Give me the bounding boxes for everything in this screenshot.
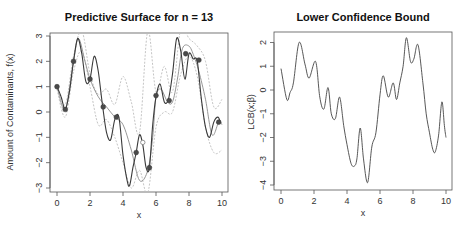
observation-point — [183, 51, 188, 56]
x-tick-label: 6 — [377, 196, 382, 206]
x-tick-label: 4 — [344, 196, 349, 206]
left-y-axis: −3−2−10123 — [34, 33, 50, 193]
observation-point — [55, 84, 60, 89]
x-tick-label: 6 — [153, 198, 158, 208]
left-chart-title: Predictive Surface for n = 13 — [65, 11, 213, 23]
observation-point — [88, 77, 93, 82]
series-line — [57, 51, 222, 194]
x-tick-label: 4 — [120, 198, 125, 208]
y-tick-label: 2 — [34, 59, 44, 64]
observation-point — [71, 59, 76, 64]
observation-point — [216, 120, 221, 125]
left-panel: Predictive Surface for n = 13 −3−2−10123… — [5, 11, 228, 220]
x-tick-label: 2 — [311, 196, 316, 206]
y-tick-label: −1 — [34, 132, 44, 142]
right-x-axis: 0246810 — [278, 190, 451, 206]
y-tick-label: 3 — [34, 33, 44, 38]
y-tick-label: 0 — [34, 109, 44, 114]
series-line — [281, 38, 446, 183]
candidate-point — [141, 140, 145, 144]
observation-point — [167, 98, 172, 103]
x-tick-label: 10 — [217, 198, 227, 208]
y-tick-label: 1 — [258, 64, 268, 69]
observation-point — [147, 165, 152, 170]
x-tick-label: 0 — [278, 196, 283, 206]
x-tick-label: 8 — [410, 196, 415, 206]
y-tick-label: 1 — [34, 84, 44, 89]
left-series-lines — [57, 26, 222, 194]
y-tick-label: −4 — [258, 180, 268, 190]
x-tick-label: 8 — [186, 198, 191, 208]
y-tick-label: 2 — [258, 40, 268, 45]
right-plot-frame — [274, 32, 452, 190]
right-chart-title: Lower Confidence Bound — [296, 11, 429, 23]
y-tick-label: −2 — [258, 132, 268, 142]
observation-point — [197, 58, 202, 63]
observation-point — [154, 93, 159, 98]
right-y-label: LCB(x;β) — [246, 94, 256, 130]
observation-point — [114, 115, 119, 120]
left-y-label: Amount of Contaminants, f(x) — [5, 53, 15, 170]
observation-point — [134, 150, 139, 155]
y-tick-label: 0 — [258, 87, 268, 92]
right-panel: Lower Confidence Bound −4−3−2−1012 02468… — [246, 11, 452, 218]
y-tick-label: −3 — [258, 156, 268, 166]
left-observation-points — [55, 51, 222, 170]
x-tick-label: 2 — [87, 198, 92, 208]
y-tick-label: −2 — [34, 158, 44, 168]
y-tick-label: −3 — [34, 183, 44, 193]
left-x-axis: 0246810 — [54, 192, 227, 208]
series-line — [57, 26, 222, 135]
observation-point — [101, 105, 106, 110]
observation-point — [63, 107, 68, 112]
left-x-label: x — [137, 210, 142, 220]
figure: Predictive Surface for n = 13 −3−2−10123… — [0, 0, 472, 228]
y-tick-label: −1 — [258, 109, 268, 119]
x-tick-label: 10 — [441, 196, 451, 206]
right-series-lines — [281, 38, 446, 183]
x-tick-label: 0 — [54, 198, 59, 208]
right-x-label: x — [361, 208, 366, 218]
left-plot-frame — [50, 33, 228, 192]
right-y-axis: −4−3−2−1012 — [258, 40, 274, 190]
